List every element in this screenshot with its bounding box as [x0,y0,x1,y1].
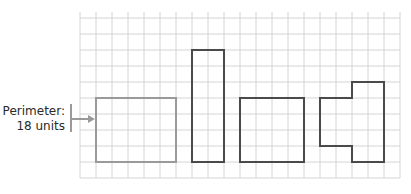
perimeter-label-line1: Perimeter: [3,104,65,119]
arrow-head-icon [88,115,95,123]
grid-diagram [0,0,411,194]
perimeter-label: Perimeter: 18 units [3,104,65,134]
perimeter-label-line2: 18 units [3,119,65,134]
